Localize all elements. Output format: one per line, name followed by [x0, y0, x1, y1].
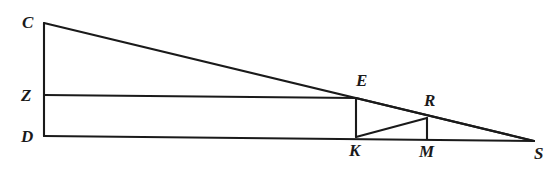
vertex-label-r: R: [424, 92, 435, 109]
vertex-label-e: E: [356, 72, 367, 89]
geometry-canvas: [0, 0, 553, 192]
segment-layer: [44, 23, 534, 141]
segment-z-e: [44, 95, 356, 98]
vertex-label-k: K: [349, 142, 360, 159]
vertex-label-m: M: [419, 143, 434, 160]
segment-e-s: [356, 98, 534, 141]
vertex-label-z: Z: [21, 87, 31, 104]
vertex-label-d: D: [21, 128, 33, 145]
segment-k-r: [356, 118, 427, 137]
segment-d-s: [44, 136, 534, 141]
geometry-figure: CZDERKMS: [0, 0, 553, 192]
vertex-label-c: C: [22, 14, 33, 31]
vertex-label-s: S: [534, 145, 543, 162]
